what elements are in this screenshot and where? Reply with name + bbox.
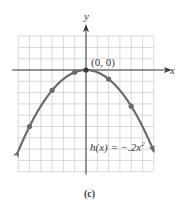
data-point	[106, 76, 111, 81]
function-label: h(x) = −.2x2	[90, 141, 145, 153]
parabola-graph	[0, 0, 185, 209]
data-point	[72, 70, 77, 75]
data-point	[27, 124, 32, 129]
x-axis-label: x	[170, 65, 175, 76]
data-point	[83, 67, 88, 72]
figure-caption: (c)	[84, 189, 95, 199]
function-label-exponent: 2	[141, 140, 145, 148]
data-point	[129, 104, 134, 109]
origin-annotation: (0, 0)	[91, 57, 115, 68]
y-axis-label: y	[84, 11, 89, 22]
function-label-main: h(x) = −.2x	[90, 141, 141, 153]
data-point	[50, 88, 55, 93]
